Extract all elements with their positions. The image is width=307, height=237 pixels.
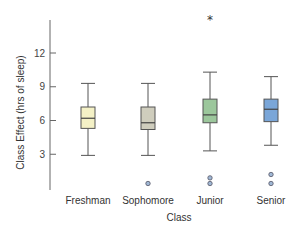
- x-axis-title: Class: [166, 212, 191, 223]
- outlier-point: [146, 181, 150, 185]
- iqr-box: [203, 99, 217, 123]
- box-freshman: [81, 83, 95, 155]
- iqr-box: [141, 107, 155, 130]
- outlier-point: [269, 172, 273, 176]
- labels: Class Effect (hrs of sleep)FreshmanSopho…: [15, 55, 286, 223]
- outlier-point: [208, 176, 212, 180]
- box-sophomore: [141, 83, 155, 185]
- axes: 36912: [34, 20, 56, 190]
- x-category-label: Freshman: [65, 195, 110, 206]
- iqr-box: [264, 99, 278, 122]
- outlier-point: [269, 181, 273, 185]
- box-junior: *: [203, 13, 217, 185]
- extreme-outlier-asterisk: *: [207, 13, 213, 27]
- box-senior: [264, 77, 278, 186]
- boxes: *: [81, 13, 278, 185]
- boxplot-chart: 36912 * Class Effect (hrs of sleep)Fresh…: [0, 0, 307, 237]
- outlier-point: [208, 181, 212, 185]
- x-category-label: Junior: [196, 195, 224, 206]
- y-tick-label: 9: [39, 81, 45, 92]
- y-tick-label: 12: [34, 48, 46, 59]
- x-category-label: Senior: [257, 195, 287, 206]
- x-category-label: Sophomore: [122, 195, 174, 206]
- y-tick-label: 3: [39, 149, 45, 160]
- y-axis-title: Class Effect (hrs of sleep): [15, 55, 26, 169]
- y-tick-label: 6: [39, 115, 45, 126]
